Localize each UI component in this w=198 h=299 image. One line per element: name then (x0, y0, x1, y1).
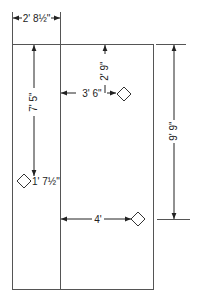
dimension-left-vertical: 7' 5" (28, 45, 39, 176)
label-left-outlet-offset: 1' 7½" (32, 176, 60, 187)
label-lower-horizontal: 4' (94, 214, 102, 225)
floor-plan-diagram: 2' 8½" 7' 5" 2' 9" 3' 6" 1' 7½" 4' 9' 9" (0, 0, 198, 299)
outlet-diamond-icon (117, 87, 131, 101)
dimension-upper-horizontal: 3' 6" (61, 88, 116, 99)
label-left-vertical: 7' 5" (28, 92, 39, 112)
outlet-diamond-icon (131, 212, 145, 226)
outlet-diamond-icon (17, 174, 31, 188)
label-center-vertical: 2' 9" (99, 61, 110, 81)
dimension-right-vertical: 9' 9" (156, 45, 190, 220)
label-upper-horizontal: 3' 6" (82, 88, 102, 99)
label-right-vertical: 9' 9" (168, 121, 179, 141)
dimension-top-width: 2' 8½" (13, 13, 60, 24)
label-top-width: 2' 8½" (23, 13, 51, 24)
dimension-lower-horizontal: 4' (61, 214, 131, 225)
dimension-center-vertical: 2' 9" (99, 45, 110, 93)
